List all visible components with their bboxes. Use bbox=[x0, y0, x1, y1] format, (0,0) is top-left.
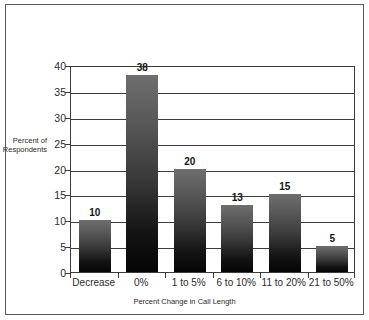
x-axis-tick-label: 11 to 20% bbox=[262, 277, 306, 289]
bar-group[interactable]: 13 bbox=[214, 67, 262, 272]
bar-value-label: 15 bbox=[279, 181, 290, 192]
y-axis-tick-label: 15 bbox=[44, 190, 66, 200]
bar[interactable] bbox=[221, 205, 253, 272]
bar-value-label: 13 bbox=[232, 192, 243, 203]
bar-value-label: 5 bbox=[329, 233, 335, 244]
bar[interactable] bbox=[126, 75, 158, 272]
y-axis-tick-label: 30 bbox=[44, 113, 66, 123]
bar[interactable] bbox=[174, 169, 206, 273]
bar-group[interactable]: 38 bbox=[119, 67, 167, 272]
bar-value-label: 38 bbox=[137, 62, 148, 73]
x-axis-tick-label: 1 to 5% bbox=[172, 277, 206, 289]
chart-figure: Percent of Respondents 0510152025303540 … bbox=[0, 0, 369, 320]
plot-area: 10382013155 bbox=[70, 66, 355, 273]
y-axis-tick-label: 35 bbox=[44, 87, 66, 97]
x-axis-tick-labels: Decrease0%1 to 5%6 to 10%11 to 20%21 to … bbox=[70, 277, 355, 291]
bar-series: 10382013155 bbox=[71, 67, 354, 272]
x-axis-title: Percent Change in Call Length bbox=[0, 297, 369, 307]
bar-group[interactable]: 15 bbox=[261, 67, 309, 272]
x-axis-tick-label: Decrease bbox=[72, 277, 115, 289]
bar-value-label: 10 bbox=[89, 207, 100, 218]
bar-group[interactable]: 20 bbox=[166, 67, 214, 272]
y-axis-tick-labels: 0510152025303540 bbox=[42, 66, 66, 273]
x-axis-tick-label: 6 to 10% bbox=[217, 277, 256, 289]
y-axis-tick-label: 0 bbox=[44, 268, 66, 278]
bar-group[interactable]: 10 bbox=[71, 67, 119, 272]
bar-group[interactable]: 5 bbox=[309, 67, 357, 272]
x-axis-tick-label: 21 to 50% bbox=[309, 277, 354, 289]
y-axis-title: Percent of Respondents bbox=[2, 136, 47, 154]
bar[interactable] bbox=[79, 220, 111, 272]
bar[interactable] bbox=[316, 246, 348, 272]
bar-value-label: 20 bbox=[184, 156, 195, 167]
y-axis-tick-label: 10 bbox=[44, 216, 66, 226]
bar[interactable] bbox=[269, 194, 301, 272]
y-axis-tick-label: 25 bbox=[44, 139, 66, 149]
y-axis-tick-label: 40 bbox=[44, 61, 66, 71]
x-axis-tick-label: 0% bbox=[134, 277, 148, 289]
y-axis-tick-label: 5 bbox=[44, 242, 66, 252]
y-axis-tick-label: 20 bbox=[44, 165, 66, 175]
